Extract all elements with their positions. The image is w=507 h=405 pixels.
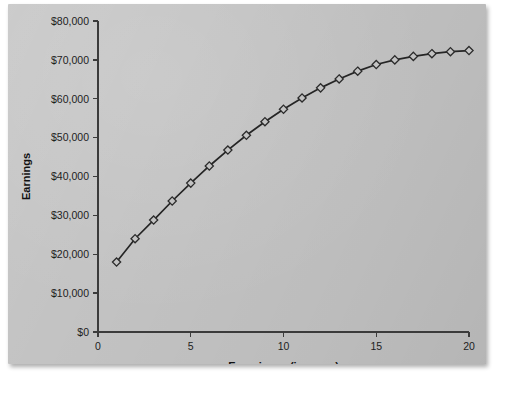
- x-tick-label: 0: [95, 340, 101, 352]
- earnings-experience-line-chart: $0$10,000$20,000$30,000$40,000$50,000$60…: [8, 4, 486, 364]
- x-tick-label: 10: [278, 340, 290, 352]
- figure-plate: $0$10,000$20,000$30,000$40,000$50,000$60…: [8, 4, 486, 364]
- data-point-marker: [409, 52, 417, 60]
- x-tick-label: 5: [188, 340, 194, 352]
- data-point-marker: [391, 56, 399, 64]
- data-point-marker: [354, 67, 362, 75]
- y-tick-label: $60,000: [51, 93, 89, 105]
- x-axis-title: Experience (in years): [228, 360, 339, 364]
- y-tick-label: $70,000: [51, 54, 89, 66]
- data-point-marker: [372, 60, 380, 68]
- y-tick-label: $80,000: [51, 15, 89, 27]
- x-axis-tick-labels: 05101520: [95, 340, 475, 352]
- x-tick-label: 20: [463, 340, 475, 352]
- y-axis-title: Earnings: [20, 153, 32, 200]
- y-axis-tick-labels: $0$10,000$20,000$30,000$40,000$50,000$60…: [51, 15, 89, 338]
- y-tick-label: $30,000: [51, 209, 89, 221]
- screenshot-root: $0$10,000$20,000$30,000$40,000$50,000$60…: [0, 0, 507, 405]
- y-tick-label: $0: [77, 326, 89, 338]
- series-markers: [112, 46, 473, 266]
- data-point-marker: [465, 46, 473, 54]
- data-point-marker: [317, 84, 325, 92]
- series-line-path: [117, 51, 469, 262]
- y-tick-label: $40,000: [51, 170, 89, 182]
- data-point-marker: [298, 94, 306, 102]
- data-point-marker: [446, 48, 454, 56]
- data-point-marker: [428, 50, 436, 58]
- y-tick-label: $20,000: [51, 248, 89, 260]
- chart-area: $0$10,000$20,000$30,000$40,000$50,000$60…: [8, 4, 486, 364]
- y-tick-label: $50,000: [51, 131, 89, 143]
- y-tick-label: $10,000: [51, 287, 89, 299]
- data-point-marker: [335, 75, 343, 83]
- x-tick-label: 15: [370, 340, 382, 352]
